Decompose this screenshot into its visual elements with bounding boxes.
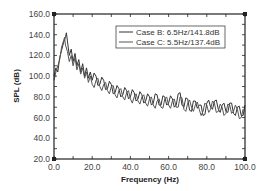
legend: Case B: 6.5Hz/141.8dB Case C: 5.5Hz/137.… — [116, 26, 225, 48]
corner-marker — [52, 12, 56, 16]
y-tick-label: 160.0 — [29, 9, 51, 19]
x-axis-title: Frequency (Hz) — [121, 175, 179, 184]
corner-marker — [52, 157, 56, 161]
legend-label-case-c: Case C: 5.5Hz/137.4dB — [136, 38, 220, 47]
x-tick-label: 20.0 — [84, 162, 101, 172]
y-axis-title: SPL (dB) — [12, 69, 21, 103]
y-tick-label: 100.0 — [29, 71, 51, 81]
y-tick-label: 60.0 — [33, 113, 50, 123]
x-tick-label: 40.0 — [122, 162, 139, 172]
x-tick-label: 100.0 — [234, 162, 256, 172]
x-tick-label: 60.0 — [160, 162, 177, 172]
spl-frequency-chart: 0.020.040.060.080.0100.020.040.060.080.0… — [0, 0, 268, 191]
y-tick-label: 40.0 — [33, 133, 50, 143]
y-tick-label: 80.0 — [33, 92, 50, 102]
corner-marker — [243, 157, 247, 161]
x-tick-label: 80.0 — [199, 162, 216, 172]
legend-label-case-b: Case B: 6.5Hz/141.8dB — [136, 28, 220, 37]
series-line-case-c — [54, 37, 245, 118]
corner-marker — [243, 12, 247, 16]
y-tick-label: 140.0 — [29, 30, 51, 40]
y-tick-label: 120.0 — [29, 50, 51, 60]
y-tick-label: 20.0 — [33, 154, 50, 164]
